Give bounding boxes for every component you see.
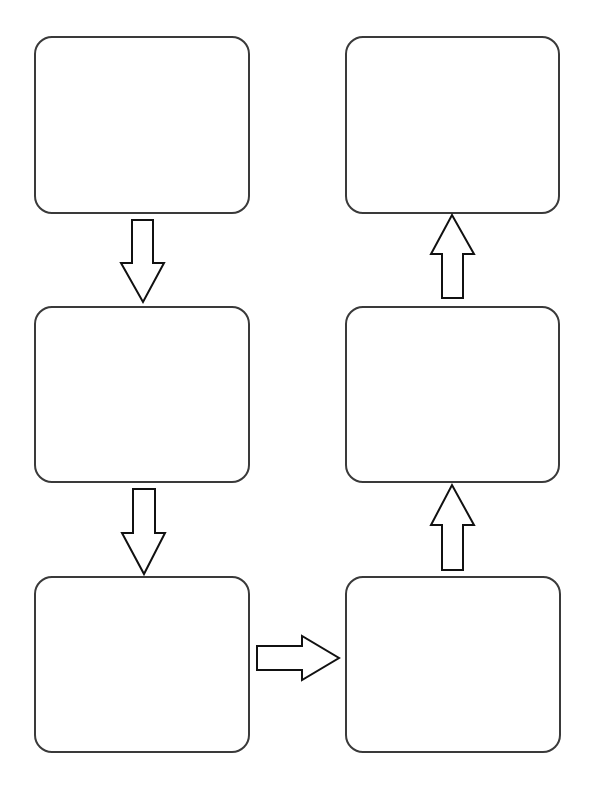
flow-box-step-4 — [345, 576, 561, 753]
arrow-right-icon — [257, 636, 339, 680]
flow-box-step-5 — [345, 306, 560, 483]
arrow-up-icon — [431, 215, 474, 298]
flow-box-step-3 — [34, 576, 250, 753]
arrow-down-icon — [121, 220, 164, 302]
arrow-down-icon — [122, 489, 165, 574]
flow-box-step-2 — [34, 306, 250, 483]
flow-box-step-1 — [34, 36, 250, 214]
flowchart-canvas — [0, 0, 591, 802]
flow-box-step-6 — [345, 36, 560, 214]
arrow-up-icon — [431, 485, 474, 570]
